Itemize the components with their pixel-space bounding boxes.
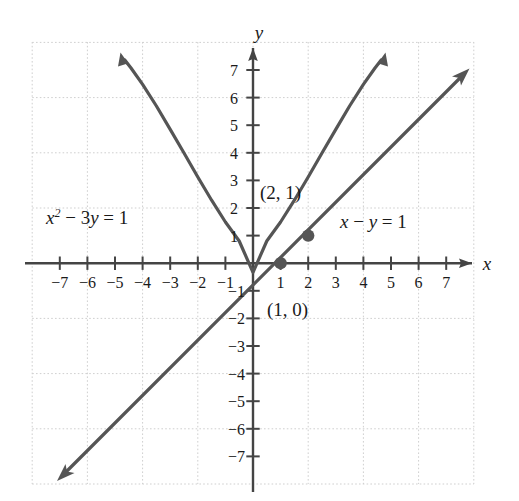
graph-figure: −7 −6 −5 −4 −3 −2 −1 1 2 3 4 5 6 7 7 6 5… (0, 0, 519, 501)
y-tick-label: 6 (230, 90, 238, 107)
y-tick-label: 3 (230, 172, 238, 189)
intersection-point-1-0 (274, 257, 286, 269)
line-eq-minus: − (348, 211, 368, 232)
y-tick-label: 7 (230, 62, 238, 79)
y-tick-label: −2 (228, 310, 245, 327)
x-tick-label: 4 (359, 274, 367, 291)
x-tick-label: −3 (162, 274, 179, 291)
x-tick-label: 7 (442, 274, 450, 291)
y-tick-label: 5 (230, 117, 238, 134)
line-eq-y: y (369, 211, 377, 232)
x-tick-label: 3 (332, 274, 340, 291)
x-tick-label: 1 (277, 274, 285, 291)
x-tick-label: 6 (415, 274, 423, 291)
y-tick-label: −4 (228, 366, 245, 383)
x-tick-label: 5 (387, 274, 395, 291)
x-tick-label: −7 (51, 274, 68, 291)
y-tick-label: −6 (228, 421, 245, 438)
y-tick-label: 2 (230, 200, 238, 217)
y-tick-label: −7 (228, 448, 245, 465)
point-label-1-0: (1, 0) (267, 299, 308, 321)
y-tick-label: −5 (228, 393, 245, 410)
x-axis-label: x (482, 253, 492, 274)
parabola-eq-minus: − 3 (60, 207, 90, 228)
x-tick-label: −6 (79, 274, 96, 291)
x-tick-label: 2 (304, 274, 312, 291)
y-tick-label: 1 (230, 228, 238, 245)
parabola-equation-label: x2 − 3y = 1 (46, 206, 128, 229)
y-tick-label: −3 (228, 338, 245, 355)
parabola-eq-tail: = 1 (99, 207, 129, 228)
y-tick-label: 4 (230, 145, 238, 162)
x-tick-label: −4 (134, 274, 151, 291)
parabola-eq-y: y (90, 207, 98, 228)
y-tick-label: −1 (228, 283, 245, 300)
point-label-2-1: (2, 1) (260, 182, 301, 204)
line-equation-label: x − y = 1 (340, 211, 407, 233)
intersection-point-2-1 (302, 229, 314, 241)
x-tick-label: −5 (106, 274, 123, 291)
line-eq-tail: = 1 (377, 211, 407, 232)
figure-background (0, 0, 519, 501)
coordinate-plane-svg: −7 −6 −5 −4 −3 −2 −1 1 2 3 4 5 6 7 7 6 5… (0, 0, 519, 501)
y-axis-label: y (253, 22, 264, 43)
x-tick-label: −2 (189, 274, 206, 291)
